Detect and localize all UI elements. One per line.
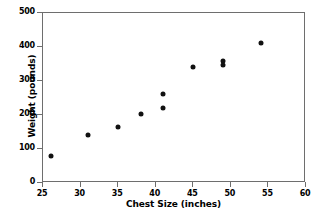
x-axis-tick-label: 45	[180, 189, 204, 198]
data-point	[191, 64, 196, 69]
x-axis-title: Chest Size (inches)	[42, 199, 305, 209]
data-point	[116, 124, 121, 129]
data-point	[161, 106, 166, 111]
x-axis-tick-label: 55	[255, 189, 279, 198]
y-axis-tick	[37, 114, 42, 115]
data-point	[86, 133, 91, 138]
x-axis-tick	[155, 182, 156, 187]
data-point	[221, 59, 226, 64]
scatter-plot-figure: 0100200300400500 2530354045505560 Weight…	[0, 0, 313, 212]
y-axis-title: Weight (pounds)	[27, 11, 37, 181]
x-axis-tick	[305, 182, 306, 187]
x-axis-tick	[117, 182, 118, 187]
y-axis-tick	[37, 46, 42, 47]
x-axis-tick-label: 30	[68, 189, 92, 198]
y-axis-tick	[37, 80, 42, 81]
data-points-layer	[43, 13, 304, 181]
data-point	[258, 40, 263, 45]
data-point	[161, 91, 166, 96]
x-axis-tick	[42, 182, 43, 187]
data-point	[138, 111, 143, 116]
y-axis-tick	[37, 12, 42, 13]
data-point	[48, 154, 53, 159]
plot-area	[42, 12, 305, 182]
x-axis-tick	[267, 182, 268, 187]
x-axis-tick	[192, 182, 193, 187]
x-axis-tick-label: 60	[293, 189, 313, 198]
y-axis-tick	[37, 148, 42, 149]
x-axis-tick	[80, 182, 81, 187]
x-axis-tick-label: 35	[105, 189, 129, 198]
x-axis-tick-label: 40	[143, 189, 167, 198]
x-axis-tick-label: 25	[30, 189, 54, 198]
x-axis-tick	[230, 182, 231, 187]
x-axis-tick-label: 50	[218, 189, 242, 198]
